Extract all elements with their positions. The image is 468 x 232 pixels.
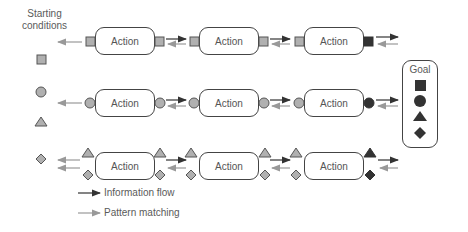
legend-information-flow: Information flow bbox=[104, 187, 175, 198]
starting-diamond-icon bbox=[36, 154, 46, 164]
legend-pattern-matching: Pattern matching bbox=[104, 207, 180, 218]
starting-circle-icon bbox=[36, 87, 46, 97]
starting-triangle-icon bbox=[35, 117, 47, 126]
diagram-graphics bbox=[0, 0, 468, 232]
goal-diamond-icon bbox=[414, 127, 426, 139]
starting-square-icon bbox=[37, 55, 46, 64]
goal-square-icon bbox=[415, 80, 426, 91]
goal-circle-icon bbox=[414, 95, 426, 107]
goal-triangle-icon bbox=[413, 111, 427, 121]
